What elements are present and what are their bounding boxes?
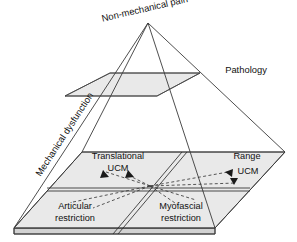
label-myofascial-restriction: restriction	[161, 213, 201, 223]
label-myofascial: Myofascial	[159, 201, 202, 211]
label-articular: Articular	[58, 201, 92, 211]
label-apex: Non-mechanical pain	[100, 0, 188, 24]
label-range-ucm: UCM	[238, 166, 259, 176]
label-pathology: Pathology	[225, 64, 267, 75]
pyramid-figure: Non-mechanical pain Mechanical dysfuncti…	[0, 0, 297, 242]
label-translational: Translational	[92, 151, 144, 161]
slab-side-left	[14, 228, 215, 234]
pyramid-diagram: Non-mechanical pain Mechanical dysfuncti…	[0, 0, 297, 242]
label-range: Range	[233, 151, 260, 161]
label-translational-ucm: UCM	[108, 163, 129, 173]
label-articular-restriction: restriction	[55, 213, 95, 223]
